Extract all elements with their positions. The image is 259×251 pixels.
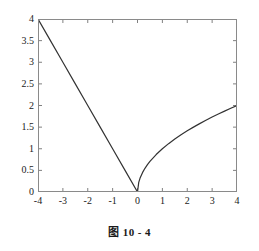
- x-tick-label: 3: [202, 196, 222, 206]
- y-tick-label: 3.5: [22, 36, 35, 46]
- x-tick-label: 2: [177, 196, 197, 206]
- x-tick-label: 0: [128, 196, 148, 206]
- x-tick-label: -3: [53, 196, 73, 206]
- figure-container: 00.511.522.533.54 -4-3-2-101234 图 10 - 4: [0, 0, 259, 251]
- y-tick-label: 2: [29, 101, 34, 111]
- y-tick-label: 1: [29, 144, 34, 154]
- x-axis-tick-labels: -4-3-2-101234: [38, 196, 237, 210]
- plot-background: [38, 19, 237, 192]
- x-tick-label: -4: [28, 196, 48, 206]
- plot-area: [38, 19, 237, 192]
- y-tick-label: 4: [29, 14, 34, 24]
- x-tick-label: 1: [152, 196, 172, 206]
- y-tick-label: 2.5: [22, 79, 35, 89]
- x-tick-label: -1: [103, 196, 123, 206]
- y-tick-label: 1.5: [22, 122, 35, 132]
- figure-caption: 图 10 - 4: [0, 223, 259, 239]
- y-tick-label: 3: [29, 57, 34, 67]
- y-axis-tick-labels: 00.511.522.533.54: [0, 19, 34, 192]
- y-tick-label: 0.5: [22, 165, 35, 175]
- plot-svg: [38, 19, 237, 192]
- x-tick-label: -2: [78, 196, 98, 206]
- x-tick-label: 4: [227, 196, 247, 206]
